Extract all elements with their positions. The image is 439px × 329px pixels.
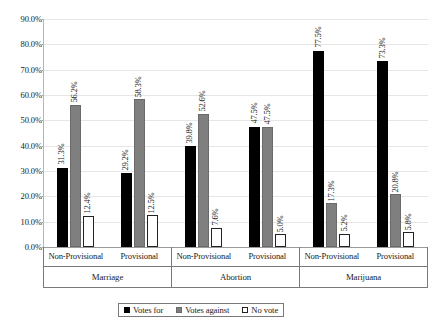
bar-value-label: 31.3% bbox=[57, 144, 66, 165]
y-axis-tick-label: 10.0% bbox=[0, 218, 42, 226]
gridline bbox=[43, 171, 428, 172]
bar-for: 29.2% bbox=[121, 173, 132, 247]
gridline bbox=[43, 196, 428, 197]
category-label: Abortion bbox=[172, 267, 299, 287]
category-subgroup-row: Non-ProvisionalProvisional bbox=[300, 247, 427, 267]
chart-legend: Votes forVotes againstNo vote bbox=[118, 303, 284, 317]
bar-for: 77.5% bbox=[313, 51, 324, 247]
y-axis-tick-label: 30.0% bbox=[0, 167, 42, 175]
bar-value-label: 39.8% bbox=[185, 122, 194, 143]
y-axis-tick-label: 80.0% bbox=[0, 40, 42, 48]
bar-value-label: 5.8% bbox=[404, 213, 413, 230]
bar-chart: 90.0%80.0%70.0%60.0%50.0%40.0%30.0%20.0%… bbox=[0, 0, 439, 329]
legend-item: No vote bbox=[242, 306, 278, 315]
category-sublabel: Provisional bbox=[364, 247, 428, 266]
bar-novote: 12.5% bbox=[147, 215, 158, 247]
bar-novote: 5.8% bbox=[403, 232, 414, 247]
gridline bbox=[43, 44, 428, 45]
bar-against: 56.2% bbox=[70, 105, 81, 247]
legend-label: No vote bbox=[251, 306, 278, 315]
y-axis: 90.0%80.0%70.0%60.0%50.0%40.0%30.0%20.0%… bbox=[0, 0, 42, 260]
y-axis-tick-label: 20.0% bbox=[0, 192, 42, 200]
bar-novote: 12.4% bbox=[83, 216, 94, 247]
legend-swatch-for bbox=[124, 307, 130, 313]
bar-value-label: 47.5% bbox=[250, 103, 259, 124]
bar-value-label: 47.5% bbox=[263, 104, 272, 125]
bar-value-label: 12.5% bbox=[147, 192, 156, 213]
category-sublabel: Non-Provisional bbox=[44, 247, 108, 266]
category-sublabel: Non-Provisional bbox=[300, 247, 364, 266]
bar-against: 20.8% bbox=[390, 194, 401, 247]
y-axis-tick-label: 60.0% bbox=[0, 91, 42, 99]
y-axis-tick-label: 40.0% bbox=[0, 142, 42, 150]
bar-for: 39.8% bbox=[185, 146, 196, 247]
category-sublabel: Provisional bbox=[236, 247, 300, 266]
category-label: Marriage bbox=[44, 267, 171, 287]
category-subgroup-row: Non-ProvisionalProvisional bbox=[44, 247, 171, 267]
bar-value-label: 5.0% bbox=[276, 215, 285, 232]
category-sublabel: Non-Provisional bbox=[172, 247, 236, 266]
bar-for: 31.3% bbox=[57, 168, 68, 247]
gridline bbox=[43, 120, 428, 121]
bar-value-label: 73.3% bbox=[378, 37, 387, 58]
y-axis-line bbox=[43, 19, 44, 248]
category-sublabel: Provisional bbox=[108, 247, 172, 266]
bar-against: 47.5% bbox=[262, 127, 273, 247]
category-subgroup-row: Non-ProvisionalProvisional bbox=[172, 247, 299, 267]
bar-value-label: 12.4% bbox=[83, 193, 92, 214]
bar-against: 58.3% bbox=[134, 99, 145, 247]
bar-value-label: 5.2% bbox=[340, 215, 349, 232]
y-axis-tick-label: 0.0% bbox=[0, 243, 42, 251]
bar-novote: 7.6% bbox=[211, 228, 222, 247]
plot-area: 31.3%56.2%12.4%29.2%58.3%12.5%39.8%52.6%… bbox=[43, 19, 428, 247]
bar-against: 52.6% bbox=[198, 114, 209, 247]
gridline bbox=[43, 19, 428, 20]
bar-against: 17.3% bbox=[326, 203, 337, 247]
legend-label: Votes against bbox=[185, 306, 229, 315]
bar-value-label: 7.6% bbox=[211, 209, 220, 226]
bar-value-label: 17.3% bbox=[327, 180, 336, 201]
legend-label: Votes for bbox=[133, 306, 163, 315]
category-group: Non-ProvisionalProvisionalMarijuana bbox=[300, 247, 427, 287]
category-label: Marijuana bbox=[300, 267, 427, 287]
bar-value-label: 56.2% bbox=[70, 82, 79, 103]
bar-value-label: 29.2% bbox=[121, 149, 130, 170]
bar-value-label: 58.3% bbox=[134, 76, 143, 97]
bar-for: 47.5% bbox=[249, 127, 260, 247]
legend-swatch-against bbox=[176, 307, 182, 313]
gridline bbox=[43, 146, 428, 147]
bar-novote: 5.0% bbox=[275, 234, 286, 247]
legend-item: Votes for bbox=[124, 306, 163, 315]
x-axis-category-table: Non-ProvisionalProvisionalMarriageNon-Pr… bbox=[43, 247, 428, 288]
gridline bbox=[43, 95, 428, 96]
bar-value-label: 52.6% bbox=[198, 91, 207, 112]
bar-value-label: 77.5% bbox=[314, 27, 323, 48]
category-group: Non-ProvisionalProvisionalAbortion bbox=[172, 247, 300, 287]
bar-novote: 5.2% bbox=[339, 234, 350, 247]
y-axis-tick-label: 70.0% bbox=[0, 66, 42, 74]
bar-value-label: 20.8% bbox=[391, 171, 400, 192]
gridline bbox=[43, 222, 428, 223]
y-axis-tick-label: 50.0% bbox=[0, 116, 42, 124]
legend-item: Votes against bbox=[176, 306, 229, 315]
legend-swatch-novote bbox=[242, 307, 248, 313]
category-group: Non-ProvisionalProvisionalMarriage bbox=[44, 247, 172, 287]
y-axis-tick-label: 90.0% bbox=[0, 15, 42, 23]
gridline bbox=[43, 70, 428, 71]
bar-for: 73.3% bbox=[377, 61, 388, 247]
